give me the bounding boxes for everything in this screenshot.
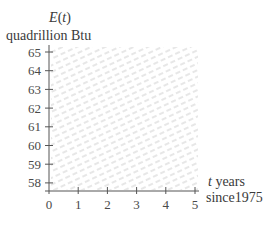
y-tick-label: 60 [28, 138, 41, 153]
x-tick-label: 3 [133, 197, 140, 212]
x-tick-label: 5 [192, 197, 199, 212]
y-tick-label: 64 [28, 63, 42, 78]
x-tick-label: 0 [46, 197, 53, 212]
x-axis-unit-label: since1975 [206, 190, 263, 206]
y-tick-label: 58 [28, 175, 41, 190]
y-tick-label: 61 [28, 119, 41, 134]
y-tick-label: 65 [28, 45, 41, 60]
y-tick-label: 59 [28, 157, 41, 172]
x-tick-label: 4 [163, 197, 170, 212]
x-tick-label: 2 [104, 197, 111, 212]
y-tick-label: 62 [28, 101, 41, 116]
hatched-plot-area [51, 47, 198, 190]
x-tick-label: 1 [75, 197, 82, 212]
y-tick-label: 63 [28, 82, 41, 97]
x-axis-variable-label: t years [208, 174, 245, 190]
x-variable-unit: years [212, 174, 245, 189]
